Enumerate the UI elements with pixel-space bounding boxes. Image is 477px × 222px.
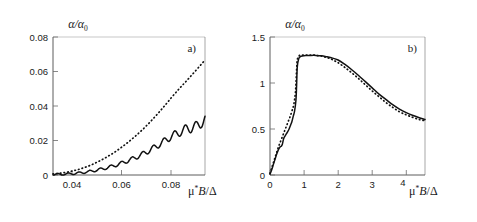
panel-b-plot: 0 0.5 1 1.5 0 1 2 3 4 α/α0 μ*B/Δ b) — [237, 0, 477, 222]
panel-b-curve-solid — [270, 55, 425, 174]
panel-a-y-ticks — [53, 37, 58, 175]
panel-a-ytick-3: 0.06 — [30, 66, 49, 77]
figure-container: 0 0.02 0.04 0.06 0.08 0.04 0.06 0.08 α/α… — [0, 0, 477, 222]
panel-a: 0 0.02 0.04 0.06 0.08 0.04 0.06 0.08 α/α… — [0, 0, 237, 222]
panel-a-xtick-2: 0.08 — [162, 179, 181, 190]
panel-b-y-ticks — [270, 37, 275, 175]
panel-a-xtick-1: 0.06 — [112, 179, 131, 190]
panel-b-ytick-0: 0 — [260, 170, 265, 181]
panel-b-xtick-3: 3 — [370, 179, 375, 190]
panel-b-ylabel: α/α0 — [285, 17, 305, 33]
panel-a-tag: a) — [187, 42, 196, 55]
panel-a-ytick-0: 0 — [43, 170, 48, 181]
panel-a-ytick-2: 0.04 — [30, 101, 49, 112]
panel-a-curve-dotted — [53, 60, 205, 174]
panel-a-axes — [53, 37, 205, 175]
panel-b-tag: b) — [408, 42, 418, 55]
panel-a-ylabel: α/α0 — [68, 17, 88, 33]
panel-a-ytick-4: 0.08 — [30, 32, 49, 43]
panel-b-x-ticks — [270, 170, 406, 175]
panel-b-ytick-1: 0.5 — [252, 124, 265, 135]
panel-a-xlabel: μ*B/Δ — [188, 184, 217, 198]
panel-b-ytick-3: 1.5 — [252, 32, 265, 43]
panel-a-plot: 0 0.02 0.04 0.06 0.08 0.04 0.06 0.08 α/α… — [0, 0, 237, 222]
panel-a-curve-solid — [53, 116, 205, 175]
panel-a-ytick-1: 0.02 — [30, 135, 49, 146]
panel-b-xlabel: μ*B/Δ — [409, 184, 438, 198]
panel-b-xtick-0: 0 — [267, 179, 272, 190]
panel-b-xtick-2: 2 — [336, 179, 341, 190]
panel-b-xtick-4: 4 — [400, 177, 405, 188]
panel-b: 0 0.5 1 1.5 0 1 2 3 4 α/α0 μ*B/Δ b) — [237, 0, 477, 222]
panel-a-xtick-0: 0.04 — [63, 179, 82, 190]
panel-b-xtick-1: 1 — [301, 179, 306, 190]
panel-b-ytick-2: 1 — [260, 78, 265, 89]
